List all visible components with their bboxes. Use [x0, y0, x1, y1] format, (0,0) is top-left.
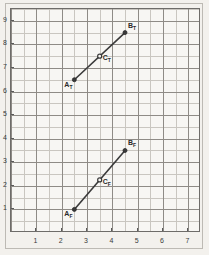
- x-tick-label-4: 4: [105, 237, 117, 244]
- x-tick-mark-6: [162, 228, 163, 231]
- x-tick-label-6: 6: [156, 237, 168, 244]
- y-tick-label-7: 7: [0, 63, 7, 70]
- point-label-CT: CT: [103, 54, 111, 63]
- x-tick-mark-3: [86, 228, 87, 231]
- y-tick-mark-9: [11, 20, 14, 21]
- point-marker-AT: [72, 78, 76, 82]
- x-tick-label-3: 3: [80, 237, 92, 244]
- x-tick-mark-4: [111, 228, 112, 231]
- point-marker-AF: [72, 207, 76, 211]
- point-label-CF: CF: [103, 178, 111, 187]
- point-marker-CT: [98, 54, 102, 58]
- y-tick-label-6: 6: [0, 87, 7, 94]
- y-tick-mark-7: [11, 67, 14, 68]
- y-tick-mark-3: [11, 161, 14, 162]
- y-tick-label-9: 9: [0, 16, 7, 23]
- point-marker-BT: [123, 31, 127, 35]
- data-layer: [11, 9, 200, 232]
- x-tick-mark-7: [187, 228, 188, 231]
- point-label-BT: BT: [128, 22, 136, 31]
- point-label-AT: AT: [64, 81, 72, 90]
- point-label-AF: AF: [64, 210, 72, 219]
- plot-area: [10, 8, 200, 232]
- point-marker-BF: [123, 148, 127, 152]
- y-tick-label-4: 4: [0, 134, 7, 141]
- y-tick-mark-4: [11, 138, 14, 139]
- x-tick-label-7: 7: [181, 237, 193, 244]
- y-tick-label-1: 1: [0, 204, 7, 211]
- x-tick-mark-1: [35, 228, 36, 231]
- series-line-segments: [74, 33, 125, 210]
- y-tick-mark-8: [11, 43, 14, 44]
- y-tick-label-2: 2: [0, 181, 7, 188]
- series-point-markers: [72, 31, 127, 212]
- figure-container: 123456789 1234567 ATCTBTAFCFBF: [0, 0, 209, 255]
- y-tick-mark-6: [11, 91, 14, 92]
- x-tick-label-5: 5: [131, 237, 143, 244]
- y-tick-mark-2: [11, 185, 14, 186]
- y-tick-mark-1: [11, 208, 14, 209]
- point-marker-CF: [98, 178, 102, 182]
- x-tick-mark-2: [61, 228, 62, 231]
- y-tick-label-8: 8: [0, 39, 7, 46]
- point-label-BF: BF: [128, 139, 136, 148]
- y-tick-mark-5: [11, 114, 14, 115]
- x-tick-label-1: 1: [29, 237, 41, 244]
- y-tick-label-5: 5: [0, 110, 7, 117]
- x-tick-mark-5: [137, 228, 138, 231]
- y-tick-label-3: 3: [0, 157, 7, 164]
- x-tick-label-2: 2: [55, 237, 67, 244]
